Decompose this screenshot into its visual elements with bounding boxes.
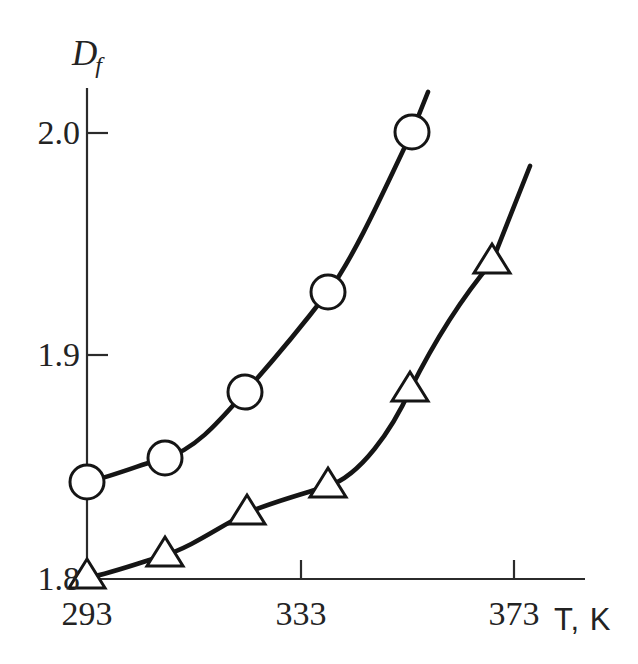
y-tick-label-2.0: 2.0 [0, 116, 80, 150]
y-axis-title: Df [72, 36, 102, 77]
x-axis-title: T, K [554, 604, 611, 635]
marker-circle-5 [395, 115, 429, 149]
marker-circle-2 [148, 441, 182, 475]
y-tick-label-1.9: 1.9 [0, 338, 80, 372]
y-tick-label-1.8: 1.8 [0, 562, 80, 596]
marker-circle-1 [70, 465, 104, 499]
y-axis-title-main: D [72, 34, 97, 73]
x-tick-label-373: 373 [464, 597, 564, 631]
x-tick-label-333: 333 [251, 597, 351, 631]
x-tick-label-293: 293 [37, 597, 137, 631]
marker-triangle-5 [392, 372, 428, 401]
chart-figure: Df 2.0 1.9 1.8 293 333 373 T, K [0, 0, 638, 664]
plot-area [0, 0, 638, 664]
marker-triangle-6 [474, 244, 510, 273]
marker-circle-3 [228, 375, 262, 409]
y-axis-title-subscript: f [95, 52, 102, 78]
curve-series-circles [87, 92, 428, 482]
curve-series-triangles [87, 166, 530, 578]
marker-circle-4 [311, 275, 345, 309]
